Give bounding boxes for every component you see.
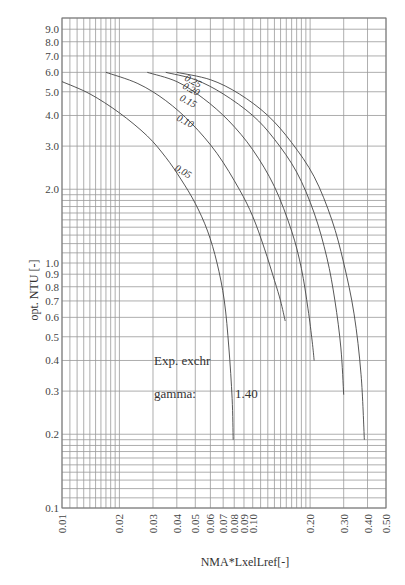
y-tick-label: 1.0: [45, 257, 59, 269]
x-tick-label: 0.30: [338, 514, 350, 534]
y-tick-label: 0.3: [45, 385, 59, 397]
x-tick-label: 0.02: [113, 514, 125, 533]
y-tick-label: 4.0: [45, 109, 59, 121]
curve-0.25: [177, 72, 365, 439]
curve-label-0.10: 0.10: [175, 112, 196, 130]
x-tick-label: 0.40: [362, 514, 374, 534]
y-tick-label: 9.0: [45, 23, 59, 35]
note-exchanger-type: Exp. exchr: [154, 353, 211, 368]
note-gamma-label: gamma:: [154, 386, 196, 401]
x-tick-label: 0.04: [171, 514, 183, 534]
note-gamma-value: 1.40: [235, 386, 258, 401]
y-tick-label: 0.4: [45, 354, 59, 366]
curves: 0.250.200.150.100.05: [62, 72, 364, 440]
x-tick-label: 0.20: [304, 514, 316, 534]
y-tick-label: 3.0: [45, 140, 59, 152]
x-tick-label: 0.06: [204, 514, 216, 534]
x-tick-label: 0.10: [247, 514, 259, 534]
y-tick-label: 0.8: [45, 281, 59, 293]
y-tick-label: 7.0: [45, 50, 59, 62]
y-tick-label: 0.5: [45, 331, 59, 343]
y-tick-label: 0.2: [45, 428, 59, 440]
y-tick-label: 0.6: [45, 311, 59, 323]
y-tick-label: 0.9: [45, 268, 59, 280]
y-tick-label: 2.0: [45, 183, 59, 195]
x-tick-label: 0.50: [380, 514, 392, 534]
y-axis-label: opt. NTU [-]: [27, 260, 41, 321]
y-tick-label: 0.1: [45, 502, 59, 514]
x-axis-label: NMA*LxelLref[-]: [201, 555, 290, 569]
grid-lines: [62, 18, 386, 508]
x-tick-label: 0.03: [147, 514, 159, 534]
curve-label-0.05: 0.05: [173, 162, 194, 180]
y-tick-label: 8.0: [45, 36, 59, 48]
ntu-chart: 0.250.200.150.100.05 0.10.20.30.40.50.60…: [0, 0, 405, 585]
x-tick-label: 0.05: [189, 514, 201, 534]
y-tick-label: 0.7: [45, 295, 59, 307]
y-tick-label: 5.0: [45, 86, 59, 98]
y-tick-label: 6.0: [45, 66, 59, 78]
curve-0.05: [62, 82, 233, 440]
tick-labels: 0.10.20.30.40.50.60.70.80.91.02.03.04.05…: [45, 23, 392, 533]
x-tick-label: 0.01: [56, 514, 68, 533]
